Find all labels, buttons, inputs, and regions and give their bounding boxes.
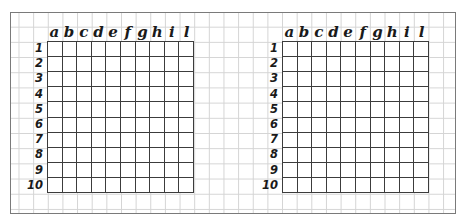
row-label: 4 — [24, 87, 46, 102]
grid-cell-b2 — [298, 57, 313, 72]
grid-cell-e6 — [106, 118, 121, 133]
grid-cell-g1 — [371, 42, 386, 57]
grid-cell-f10 — [356, 178, 371, 193]
grid-cell-d3 — [327, 72, 342, 87]
grid-cell-f2 — [121, 57, 136, 72]
grid-cell-d2 — [327, 57, 342, 72]
grid-cell-e2 — [341, 57, 356, 72]
grid-cell-l7 — [179, 133, 194, 148]
grid-cell-c5 — [77, 102, 92, 117]
grid-cell-f9 — [356, 163, 371, 178]
grid-cell-a2 — [48, 57, 63, 72]
row-label: 2 — [259, 56, 281, 71]
grid-cell-b4 — [298, 87, 313, 102]
row-label: 1 — [259, 41, 281, 56]
row-label: 8 — [259, 147, 281, 162]
grid-cell-e3 — [106, 72, 121, 87]
grid-cell-d3 — [92, 72, 107, 87]
right-board-row-labels: 1 2 3 4 5 6 7 8 9 10 — [259, 41, 281, 193]
grid-cell-h8 — [385, 148, 400, 163]
row-label: 8 — [24, 147, 46, 162]
row-label: 5 — [24, 102, 46, 117]
grid-cell-g8 — [136, 148, 151, 163]
left-board-row-labels: 1 2 3 4 5 6 7 8 9 10 — [24, 41, 46, 193]
grid-cell-e2 — [106, 57, 121, 72]
column-label: c — [311, 23, 326, 41]
grid-cell-b9 — [298, 163, 313, 178]
grid-cell-d10 — [327, 178, 342, 193]
grid-cell-d5 — [327, 102, 342, 117]
grid-cell-b2 — [63, 57, 78, 72]
grid-cell-b7 — [298, 133, 313, 148]
grid-cell-f8 — [121, 148, 136, 163]
grid-cell-c3 — [77, 72, 92, 87]
grid-cell-a7 — [283, 133, 298, 148]
grid-cell-g6 — [371, 118, 386, 133]
column-label: i — [165, 23, 180, 41]
grid-cell-i1 — [400, 42, 415, 57]
grid-cell-e6 — [341, 118, 356, 133]
grid-cell-g7 — [371, 133, 386, 148]
grid-cell-f1 — [356, 42, 371, 57]
grid-cell-f3 — [121, 72, 136, 87]
grid-cell-l10 — [179, 178, 194, 193]
grid-cell-h1 — [385, 42, 400, 57]
grid-cell-g8 — [371, 148, 386, 163]
grid-cell-c10 — [77, 178, 92, 193]
grid-cell-g10 — [136, 178, 151, 193]
grid-cell-g2 — [371, 57, 386, 72]
grid-cell-h10 — [150, 178, 165, 193]
grid-cell-a5 — [283, 102, 298, 117]
grid-cell-d8 — [327, 148, 342, 163]
left-board-column-labels: a b c d e f g h i l — [47, 23, 194, 41]
grid-cell-f4 — [121, 87, 136, 102]
grid-cell-l9 — [414, 163, 429, 178]
grid-cell-c6 — [77, 118, 92, 133]
grid-cell-a8 — [48, 148, 63, 163]
grid-cell-h8 — [150, 148, 165, 163]
grid-cell-d2 — [92, 57, 107, 72]
grid-cell-l9 — [179, 163, 194, 178]
grid-cell-i4 — [400, 87, 415, 102]
grid-cell-b8 — [63, 148, 78, 163]
grid-cell-h2 — [385, 57, 400, 72]
grid-cell-i10 — [400, 178, 415, 193]
column-label: d — [91, 23, 106, 41]
grid-cell-e9 — [106, 163, 121, 178]
grid-cell-a9 — [283, 163, 298, 178]
grid-cell-a4 — [283, 87, 298, 102]
grid-cell-c9 — [312, 163, 327, 178]
column-label: f — [355, 23, 370, 41]
column-label: a — [282, 23, 297, 41]
grid-cell-h2 — [150, 57, 165, 72]
grid-cell-h10 — [385, 178, 400, 193]
grid-cell-a2 — [283, 57, 298, 72]
grid-cell-h4 — [150, 87, 165, 102]
grid-cell-g3 — [136, 72, 151, 87]
grid-cell-h7 — [150, 133, 165, 148]
grid-cell-f10 — [121, 178, 136, 193]
grid-cell-e3 — [341, 72, 356, 87]
grid-cell-i3 — [400, 72, 415, 87]
grid-cell-i5 — [165, 102, 180, 117]
column-label: c — [76, 23, 91, 41]
grid-cell-i7 — [165, 133, 180, 148]
grid-cell-g6 — [136, 118, 151, 133]
row-label: 10 — [259, 178, 281, 193]
column-label: b — [62, 23, 77, 41]
grid-cell-c8 — [312, 148, 327, 163]
grid-cell-c4 — [312, 87, 327, 102]
grid-cell-f6 — [356, 118, 371, 133]
grid-cell-d7 — [92, 133, 107, 148]
grid-cell-g3 — [371, 72, 386, 87]
grid-cell-i1 — [165, 42, 180, 57]
grid-cell-c7 — [77, 133, 92, 148]
grid-cell-a6 — [283, 118, 298, 133]
grid-cell-c10 — [312, 178, 327, 193]
grid-cell-e8 — [106, 148, 121, 163]
grid-cell-f2 — [356, 57, 371, 72]
grid-cell-h5 — [385, 102, 400, 117]
grid-cell-g7 — [136, 133, 151, 148]
column-label: d — [326, 23, 341, 41]
column-label: g — [370, 23, 385, 41]
